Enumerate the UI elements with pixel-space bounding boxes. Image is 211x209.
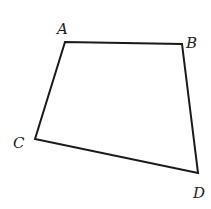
vertex-label-a: A — [55, 20, 68, 38]
vertex-label-d: D — [192, 184, 205, 202]
vertex-label-c: C — [13, 134, 25, 152]
quadrilateral-diagram: A B C D — [0, 0, 211, 209]
quadrilateral-abdc — [35, 42, 198, 173]
vertex-label-b: B — [185, 34, 197, 52]
